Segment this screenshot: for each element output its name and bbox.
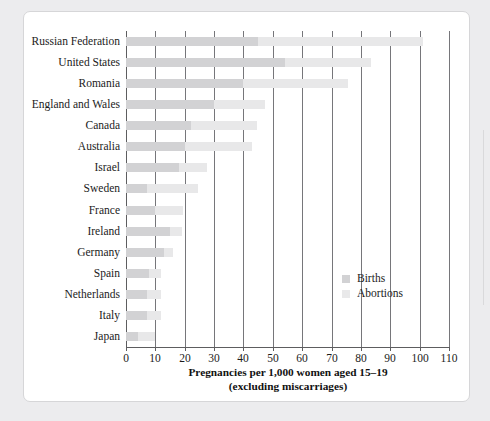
chart-legend: Births Abortions [342, 271, 432, 301]
bar-segment-births [126, 332, 138, 341]
bar-segment-abortions [147, 311, 162, 320]
bar-segment-births [126, 100, 214, 109]
stacked-bar [126, 142, 252, 151]
bar-segment-abortions [179, 163, 207, 172]
stacked-bar [126, 100, 265, 109]
category-label-france: France [0, 204, 120, 216]
category-label-spain: Spain [0, 267, 120, 279]
category-label-ireland: Ireland [0, 225, 120, 237]
category-label-japan: Japan [0, 330, 120, 342]
bar-segment-births [126, 227, 170, 236]
bar-segment-abortions [164, 248, 173, 257]
stacked-bar [126, 79, 348, 88]
category-label-israel: Israel [0, 161, 120, 173]
category-label-england-and-wales: England and Wales [0, 98, 120, 110]
stacked-bar [126, 269, 161, 278]
stacked-bar [126, 121, 257, 130]
stacked-bar [126, 311, 161, 320]
bar-row: Italy [0, 305, 490, 326]
bar-row: Australia [0, 136, 490, 157]
bar-segment-abortions [147, 184, 198, 193]
bar-segment-abortions [155, 206, 183, 215]
x-tick-20 [185, 347, 186, 351]
bar-row: Romania [0, 73, 490, 94]
bar-segment-abortions [185, 142, 253, 151]
x-tick-110 [449, 347, 450, 351]
bar-segment-births [126, 248, 164, 257]
bar-segment-abortions [191, 121, 257, 130]
bar-segment-births [126, 269, 149, 278]
legend-label-abortions: Abortions [357, 286, 403, 301]
category-label-germany: Germany [0, 246, 120, 258]
category-label-netherlands: Netherlands [0, 288, 120, 300]
bar-segment-births [126, 163, 179, 172]
bar-segment-abortions [170, 227, 182, 236]
category-label-australia: Australia [0, 140, 120, 152]
bar-row: United States [0, 52, 490, 73]
bar-segment-births [126, 290, 147, 299]
bar-row: Germany [0, 242, 490, 263]
stacked-bar [126, 58, 371, 67]
category-label-sweden: Sweden [0, 182, 120, 194]
legend-label-births: Births [357, 271, 385, 286]
stacked-bar [126, 248, 173, 257]
x-tick-50 [273, 347, 274, 351]
legend-item-abortions: Abortions [342, 286, 432, 301]
bar-segment-abortions [214, 100, 265, 109]
category-label-canada: Canada [0, 119, 120, 131]
category-label-russian-federation: Russian Federation [0, 35, 120, 47]
bar-segment-abortions [147, 290, 162, 299]
bar-segment-births [126, 311, 147, 320]
x-tick-80 [361, 347, 362, 351]
stacked-bar [126, 184, 198, 193]
stacked-bar [126, 227, 182, 236]
x-tick-100 [420, 347, 421, 351]
bar-segment-births [126, 79, 243, 88]
bar-row: Israel [0, 157, 490, 178]
bar-segment-abortions [285, 58, 372, 67]
x-axis-title-line2: (excluding miscarriages) [126, 380, 450, 394]
bar-row: Russian Federation [0, 31, 490, 52]
bar-segment-births [126, 206, 155, 215]
bar-row: Japan [0, 326, 490, 347]
bar-segment-abortions [258, 37, 422, 46]
category-label-united-states: United States [0, 56, 120, 68]
bar-segment-births [126, 121, 191, 130]
bar-row: France [0, 200, 490, 221]
stacked-bar [126, 290, 161, 299]
bar-segment-births [126, 37, 258, 46]
teen-pregnancy-bar-chart: 0102030405060708090100110 Russian Federa… [0, 0, 490, 421]
x-tick-60 [302, 347, 303, 351]
bar-row: Ireland [0, 221, 490, 242]
x-tick-label-110: 110 [429, 352, 469, 364]
bar-row: Sweden [0, 178, 490, 199]
bar-segment-births [126, 142, 185, 151]
x-axis-title-line1: Pregnancies per 1,000 women aged 15–19 [126, 366, 450, 380]
legend-item-births: Births [342, 271, 432, 286]
bar-segment-births [126, 58, 285, 67]
x-tick-30 [214, 347, 215, 351]
bar-row: Canada [0, 115, 490, 136]
stacked-bar [126, 37, 423, 46]
x-axis-title: Pregnancies per 1,000 women aged 15–19 (… [126, 366, 450, 393]
bar-segment-abortions [149, 269, 161, 278]
category-label-italy: Italy [0, 309, 120, 321]
stacked-bar [126, 206, 183, 215]
x-tick-40 [243, 347, 244, 351]
bar-row: England and Wales [0, 94, 490, 115]
bar-segment-abortions [243, 79, 347, 88]
legend-swatch-births [342, 275, 350, 283]
x-tick-90 [390, 347, 391, 351]
x-tick-0 [126, 347, 127, 351]
x-tick-70 [332, 347, 333, 351]
x-tick-10 [155, 347, 156, 351]
bar-segment-abortions [138, 332, 156, 341]
legend-swatch-abortions [342, 290, 350, 298]
stacked-bar [126, 163, 207, 172]
stacked-bar [126, 332, 155, 341]
category-label-romania: Romania [0, 77, 120, 89]
x-axis-line [126, 347, 450, 348]
bar-segment-births [126, 184, 147, 193]
page-background: 0102030405060708090100110 Russian Federa… [0, 0, 490, 421]
